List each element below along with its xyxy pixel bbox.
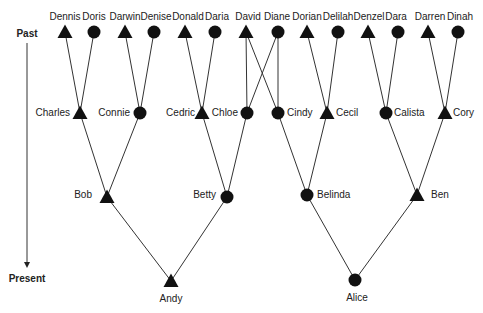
link-darwin-to-connie: [125, 32, 140, 113]
male-triangle-icon: [239, 25, 254, 39]
female-circle-icon: [272, 107, 285, 120]
person-label: Alice: [346, 292, 368, 303]
arrow-down-icon: [24, 262, 30, 268]
link-belinda-to-alice: [307, 195, 355, 280]
link-daria-to-cedric: [202, 32, 215, 113]
link-darren-to-cory: [428, 32, 445, 113]
link-doris-to-charles: [80, 32, 94, 113]
person-doris: Doris: [82, 11, 105, 39]
male-triangle-icon: [410, 188, 425, 202]
person-denise: Denise: [140, 11, 172, 39]
person-label: Cedric: [166, 107, 195, 118]
person-label: Ben: [431, 189, 449, 200]
past-label: Past: [16, 28, 38, 39]
link-denzel-to-calista: [368, 32, 386, 113]
link-cory-to-ben: [417, 113, 445, 195]
person-charles: Charles: [36, 106, 88, 120]
person-daria: Daria: [205, 11, 229, 39]
link-calista-to-ben: [386, 113, 417, 195]
link-chloe-to-betty: [227, 113, 247, 197]
person-chloe: Chloe: [212, 107, 254, 120]
link-connie-to-bob: [107, 113, 140, 197]
link-dinah-to-cory: [445, 32, 458, 113]
male-triangle-icon: [421, 25, 436, 39]
time-axis: Past Present: [9, 28, 46, 284]
person-label: Darwin: [109, 11, 140, 22]
female-circle-icon: [148, 26, 161, 39]
female-circle-icon: [272, 26, 285, 39]
link-charles-to-bob: [80, 113, 107, 197]
person-label: Connie: [98, 107, 130, 118]
person-dorian: Dorian: [292, 11, 321, 38]
person-alice: Alice: [346, 274, 368, 304]
female-circle-icon: [452, 26, 465, 39]
person-label: Andy: [160, 293, 183, 304]
female-circle-icon: [241, 107, 254, 120]
person-label: Cory: [453, 107, 474, 118]
person-label: Belinda: [317, 189, 351, 200]
person-betty: Betty: [193, 189, 233, 204]
person-david: David: [235, 11, 261, 38]
person-darwin: Darwin: [109, 11, 140, 38]
person-label: Dorian: [292, 11, 321, 22]
pedigree-canvas: Past Present DennisDorisDarwinDeniseDona…: [0, 0, 483, 313]
person-label: Diane: [264, 11, 291, 22]
male-triangle-icon: [361, 25, 376, 39]
person-label: Darren: [415, 11, 446, 22]
person-label: Cecil: [336, 107, 358, 118]
female-circle-icon: [392, 26, 405, 39]
present-label: Present: [9, 273, 46, 284]
link-denise-to-connie: [140, 32, 154, 113]
person-label: David: [235, 11, 261, 22]
male-triangle-icon: [58, 25, 73, 39]
male-triangle-icon: [100, 190, 115, 204]
person-label: Denzel: [353, 11, 384, 22]
link-dennis-to-charles: [65, 32, 80, 113]
person-cedric: Cedric: [166, 106, 209, 120]
person-delilah: Delilah: [323, 11, 354, 39]
female-circle-icon: [301, 189, 314, 202]
female-circle-icon: [209, 26, 222, 39]
person-cindy: Cindy: [272, 107, 313, 120]
person-belinda: Belinda: [301, 189, 351, 202]
person-label: Denise: [140, 11, 172, 22]
female-circle-icon: [332, 26, 345, 39]
male-triangle-icon: [73, 106, 88, 120]
person-label: Betty: [193, 189, 216, 200]
person-label: Dara: [385, 11, 407, 22]
link-david-to-chloe: [246, 32, 247, 113]
link-cindy-to-belinda: [278, 113, 307, 195]
female-circle-icon: [134, 107, 147, 120]
person-donald: Donald: [172, 11, 204, 38]
male-triangle-icon: [300, 25, 315, 39]
link-cedric-to-betty: [202, 113, 227, 197]
link-dara-to-calista: [386, 32, 398, 113]
person-label: Dinah: [447, 11, 473, 22]
male-triangle-icon: [438, 106, 453, 120]
person-dara: Dara: [385, 11, 407, 39]
person-darren: Darren: [415, 11, 446, 38]
person-cory: Cory: [438, 106, 475, 120]
person-label: Charles: [36, 107, 70, 118]
female-circle-icon: [380, 107, 393, 120]
person-label: Calista: [394, 107, 425, 118]
person-diane: Diane: [264, 11, 291, 39]
male-triangle-icon: [178, 25, 193, 39]
female-circle-icon: [221, 191, 234, 204]
person-label: Bob: [74, 189, 92, 200]
link-dorian-to-cecil: [307, 32, 327, 113]
parent-child-links: [65, 32, 458, 281]
female-circle-icon: [88, 26, 101, 39]
male-triangle-icon: [118, 25, 133, 39]
male-triangle-icon: [164, 274, 179, 288]
person-label: Chloe: [212, 107, 239, 118]
link-delilah-to-cecil: [327, 32, 338, 113]
person-label: Delilah: [323, 11, 354, 22]
link-betty-to-andy: [171, 197, 227, 281]
male-triangle-icon: [320, 106, 335, 120]
person-label: Donald: [172, 11, 204, 22]
person-label: Cindy: [287, 107, 313, 118]
person-andy: Andy: [160, 274, 183, 305]
male-triangle-icon: [195, 106, 210, 120]
link-cecil-to-belinda: [307, 113, 327, 195]
